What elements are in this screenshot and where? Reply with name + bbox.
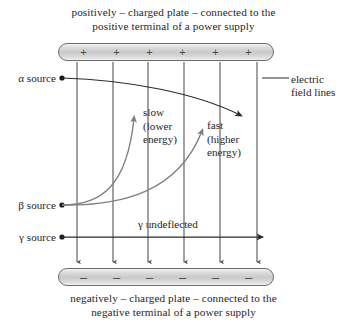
diagram-vector-overlay (0, 0, 347, 324)
beta-ray-group (59, 118, 202, 208)
gamma-ray-group (59, 234, 261, 239)
field-lines-group (77, 62, 257, 262)
alpha-ray-group (59, 75, 240, 115)
beta-fast-ray-path (62, 131, 202, 205)
beta-slow-ray-path (62, 118, 134, 205)
electric-field-deflection-diagram: positively – charged plate – connected t… (0, 0, 347, 324)
alpha-ray-path (62, 78, 240, 115)
